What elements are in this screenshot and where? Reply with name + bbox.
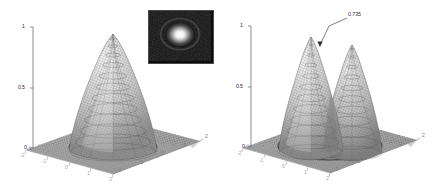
annotation-arrowhead — [317, 42, 322, 47]
left-x-tick-2: 2 — [109, 177, 112, 182]
right-y-tick-m1: -1 — [356, 159, 360, 164]
right-z-tick-05: 0.5 — [236, 84, 243, 89]
right-z-tick-0: 0 — [242, 144, 245, 149]
right-x-tick-0: 0 — [282, 164, 285, 169]
peak-value-annotation: 0.735 — [348, 12, 361, 17]
intensity-map-single-lobe — [148, 10, 214, 64]
right-x-tick-2: 2 — [326, 176, 329, 181]
left-y-tick-m1: -1 — [139, 160, 143, 165]
right-x-tick-1: 1 — [304, 170, 307, 175]
right-z-axis — [248, 26, 251, 147]
left-y-tick-m2: -2 — [117, 168, 121, 173]
left-z-tick-1: 1 — [22, 24, 25, 29]
left-z-tick-05: 0.5 — [18, 85, 25, 90]
left-y-tick-0: 0 — [161, 151, 164, 156]
right-y-tick-2: 2 — [422, 133, 425, 138]
left-x-tick-m2: -2 — [20, 153, 24, 158]
right-y-tick-1: 1 — [400, 142, 403, 147]
left-z-axis — [30, 27, 33, 148]
right-x-tick-m1: -1 — [259, 158, 263, 163]
left-x-tick-0: 0 — [65, 165, 68, 170]
right-plot-canvas — [219, 0, 438, 184]
left-peak — [69, 34, 157, 161]
figure-two-surface-plots: 1 0.5 0 2 1 0 -1 -2 -2 -1 0 1 2 — [0, 0, 438, 184]
right-y-tick-m2: -2 — [334, 167, 338, 172]
annotation-leader — [320, 18, 347, 45]
panel-double-peak: 0.735 1 0.5 0 2 1 0 -1 -2 -2 -1 0 1 2 — [219, 0, 438, 184]
right-y-tick-0: 0 — [378, 150, 381, 155]
left-z-tick-0: 0 — [24, 145, 27, 150]
left-x-tick-1: 1 — [87, 171, 90, 176]
left-x-tick-m1: -1 — [42, 159, 46, 164]
right-z-tick-1: 1 — [240, 23, 243, 28]
right-x-tick-m2: -2 — [237, 151, 241, 156]
panel-single-peak: 1 0.5 0 2 1 0 -1 -2 -2 -1 0 1 2 — [0, 0, 219, 184]
left-y-tick-2: 2 — [205, 134, 208, 139]
left-y-tick-1: 1 — [183, 143, 186, 148]
